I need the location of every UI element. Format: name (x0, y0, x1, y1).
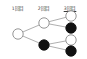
tree-edge (49, 46, 66, 50)
black-ball-node (66, 23, 76, 33)
black-ball-node (66, 46, 76, 56)
tree-nodes (13, 11, 76, 56)
tree-edge (23, 25, 39, 32)
tree-edge (49, 41, 66, 44)
white-ball-node (13, 29, 23, 39)
tree-edge (23, 36, 39, 43)
black-ball-node (39, 40, 49, 50)
tree-edge (49, 24, 66, 27)
probability-tree-figure: 1回目 2回目 3回目 (0, 0, 87, 59)
white-ball-node (39, 18, 49, 28)
tree-diagram (0, 0, 87, 59)
white-ball-node (66, 35, 76, 45)
white-ball-node (66, 11, 76, 21)
tree-edge (49, 17, 66, 21)
